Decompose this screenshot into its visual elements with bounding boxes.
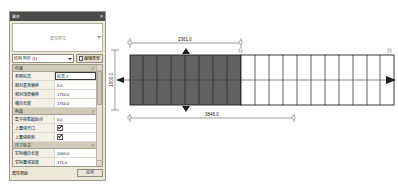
checkbox-checked-icon[interactable]	[57, 125, 63, 131]
property-value[interactable]	[55, 124, 96, 132]
node-marker-a	[128, 41, 131, 44]
chevron-down-icon[interactable]	[68, 58, 72, 60]
properties-panel: 属性 × 属性预览 结构 构件 (1) 编辑类型 约束≡参照标高标高 1相对基准…	[9, 11, 106, 181]
node-marker-f	[292, 116, 295, 119]
type-preview-area: 属性预览	[12, 23, 103, 52]
drawing-canvas[interactable]: 2361.0 1000.0 3846.0	[108, 0, 398, 196]
property-value[interactable]: 0.0	[55, 81, 96, 89]
property-value[interactable]: 标高 1	[55, 72, 96, 80]
cad-application-window: 属性 × 属性预览 结构 构件 (1) 编辑类型 约束≡参照标高标高 1相对基准…	[0, 0, 398, 196]
property-row[interactable]: 相对顶部偏移1750.0	[13, 90, 96, 99]
top-drag-handle	[182, 48, 190, 54]
panel-title-bar: 属性 ×	[10, 12, 105, 21]
group-collapse-icon[interactable]: ≡	[92, 142, 94, 149]
checkbox-checked-icon[interactable]	[57, 134, 63, 140]
scrollbar-thumb[interactable]	[97, 71, 102, 105]
property-value[interactable]: 1750.0	[55, 90, 96, 98]
scrollbar-track[interactable]	[97, 105, 102, 160]
property-group-header[interactable]: 尺寸标注≡	[13, 142, 96, 149]
property-key: 集中荷载起始点	[13, 115, 55, 123]
apply-button[interactable]: 应用	[77, 169, 103, 177]
top-dimension: 2361.0	[130, 37, 241, 48]
property-grid-wrapper: 约束≡参照标高标高 1相对基准偏移0.0相对顶部偏移1750.0横向长度1750…	[12, 64, 103, 167]
group-collapse-icon[interactable]: ≡	[92, 65, 94, 72]
property-row[interactable]: 相对基准偏移0.0	[13, 81, 96, 90]
property-group-header[interactable]: 约束≡	[13, 65, 96, 72]
property-value[interactable]: 0.0	[55, 115, 96, 123]
property-row[interactable]: 集中荷载起始点0.0	[13, 115, 96, 124]
chevron-down-icon[interactable]	[97, 36, 101, 39]
node-marker-e	[128, 116, 131, 119]
property-value[interactable]: 1000.0	[55, 149, 96, 157]
scroll-down-button[interactable]	[97, 160, 102, 166]
property-key: 实际翼缘宽度	[13, 158, 55, 166]
apply-button-label: 应用	[86, 169, 94, 177]
beam-drawing: 2361.0 1000.0 3846.0	[108, 0, 398, 196]
property-row[interactable]: 实际翼缘宽度171.0	[13, 158, 96, 166]
preview-label: 属性预览	[50, 35, 66, 41]
property-grid-scrollbar[interactable]	[96, 65, 102, 166]
property-key: 上翼缘开口	[13, 124, 55, 132]
type-selector-value: 结构 构件 (1)	[14, 54, 37, 63]
bottom-dimension-text: 3846.0	[205, 112, 219, 117]
bottom-dimension: 3846.0	[130, 112, 294, 122]
group-collapse-icon[interactable]: ≡	[92, 108, 94, 115]
panel-footer: 属性帮助 应用	[12, 168, 103, 178]
property-row[interactable]: 实际横向长度1000.0	[13, 149, 96, 158]
property-group-label: 构造	[15, 108, 23, 115]
property-value[interactable]	[55, 133, 96, 141]
property-group-label: 约束	[15, 65, 23, 72]
property-grid[interactable]: 约束≡参照标高标高 1相对基准偏移0.0相对顶部偏移1750.0横向长度1750…	[13, 65, 96, 166]
property-key: 相对基准偏移	[13, 81, 55, 89]
property-key: 实际横向长度	[13, 149, 55, 157]
property-key: 横向长度	[13, 99, 55, 107]
node-marker-b	[239, 41, 242, 44]
property-value[interactable]: 1750.0	[55, 99, 96, 107]
panel-title: 属性	[12, 12, 20, 21]
property-group-header[interactable]: 构造≡	[13, 108, 96, 115]
property-key: 相对顶部偏移	[13, 90, 55, 98]
node-marker-c	[239, 49, 242, 52]
property-group-label: 尺寸标注	[15, 142, 31, 149]
property-value[interactable]: 171.0	[55, 158, 96, 166]
property-key: 上翼缘削剪	[13, 133, 55, 141]
edit-type-icon	[79, 56, 83, 61]
left-arrow-icon	[116, 77, 124, 83]
properties-help-link[interactable]: 属性帮助	[12, 170, 28, 176]
property-row[interactable]: 上翼缘开口	[13, 124, 96, 133]
edit-type-label: 编辑类型	[84, 55, 100, 63]
node-marker-d	[388, 49, 391, 52]
edit-type-button[interactable]: 编辑类型	[76, 54, 103, 63]
type-selector-combo[interactable]: 结构 构件 (1)	[12, 54, 74, 63]
property-row[interactable]: 横向长度1750.0	[13, 99, 96, 108]
property-row[interactable]: 参照标高标高 1	[13, 72, 96, 81]
bottom-drag-handle	[182, 106, 190, 112]
type-selector-row: 结构 构件 (1) 编辑类型	[12, 54, 103, 63]
top-dimension-text: 2361.0	[178, 37, 192, 42]
property-key: 参照标高	[13, 72, 55, 80]
left-dimension-text: 1000.0	[109, 73, 114, 87]
close-icon[interactable]: ×	[100, 12, 103, 21]
